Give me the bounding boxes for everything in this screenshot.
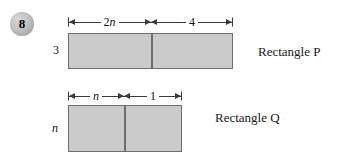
rectangle-q-divider bbox=[124, 105, 126, 152]
rectangle-p-caption: Rectangle P bbox=[258, 44, 320, 59]
arrowhead-left-icon bbox=[124, 93, 130, 99]
dimension-n-variable: n bbox=[93, 89, 99, 103]
dimension-n: n bbox=[68, 89, 124, 103]
question-number-label: 8 bbox=[19, 17, 26, 31]
dimension-2n: 2n bbox=[68, 15, 151, 29]
dimension-4: 4 bbox=[151, 15, 233, 29]
dimension-4-label: 4 bbox=[186, 16, 198, 29]
arrowhead-left-icon bbox=[69, 93, 75, 99]
rectangle-p-height-label: 3 bbox=[53, 44, 59, 57]
question-number-badge: 8 bbox=[10, 12, 34, 36]
arrowhead-right-icon bbox=[175, 93, 181, 99]
arrowhead-right-icon bbox=[226, 19, 232, 25]
arrowhead-left-icon bbox=[69, 19, 75, 25]
rectangle-p-divider bbox=[151, 33, 153, 69]
dimension-n-label: n bbox=[90, 90, 102, 103]
dimension-2n-variable: n bbox=[110, 15, 116, 29]
arrowhead-left-icon bbox=[151, 19, 157, 25]
dimension-2n-label: 2n bbox=[101, 16, 119, 29]
rectangle-q-height-label: n bbox=[52, 122, 58, 135]
rectangle-q-caption: Rectangle Q bbox=[215, 110, 280, 125]
dimension-1: 1 bbox=[124, 89, 182, 103]
figure-canvas: 8 2n 4 3 Rectangle P n 1 bbox=[0, 0, 349, 157]
dimension-1-label: 1 bbox=[147, 90, 159, 103]
